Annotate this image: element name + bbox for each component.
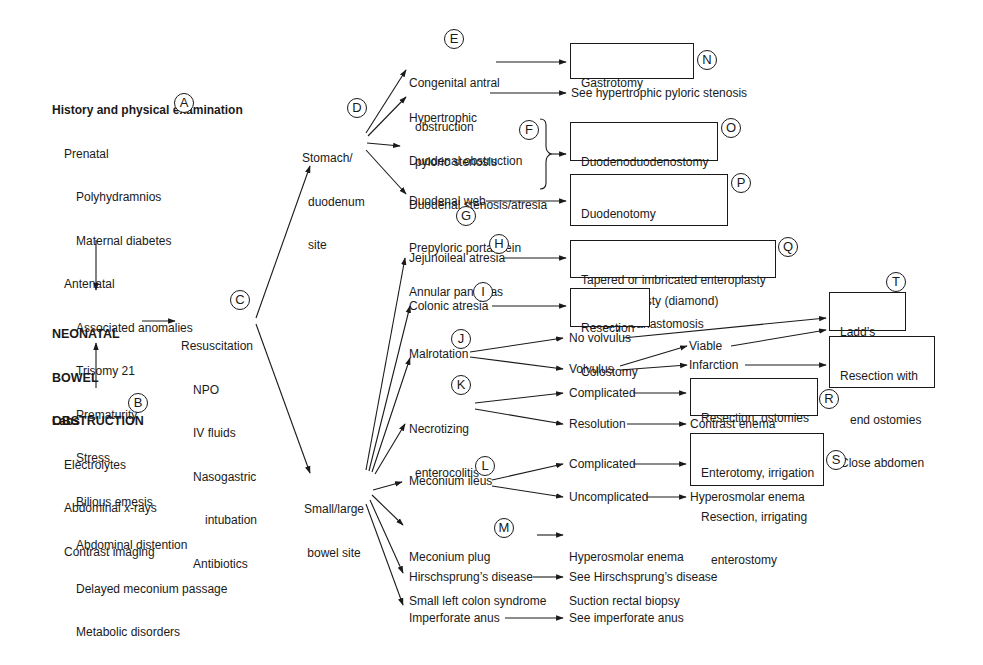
result-box-t: Ladd’s procedure	[829, 292, 906, 331]
mi-complicated: Complicated	[569, 457, 636, 472]
colonic-atresia: Colonic atresia	[409, 299, 488, 314]
history-heading: History and physical examination	[52, 103, 243, 118]
badge-n: N	[697, 50, 717, 70]
see-imperforate-link[interactable]: See imperforate anus	[569, 611, 684, 626]
labs-item: Contrast imaging	[52, 545, 157, 560]
small-large-bowel-site: Small/large bowel site	[304, 473, 364, 575]
badge-c: C	[230, 290, 250, 310]
antenatal-label: Antenatal	[52, 277, 243, 292]
resuscitation-item: intubation	[181, 513, 257, 528]
plug-line: Meconium plug	[409, 550, 546, 565]
resuscitation-item: Nasogastric	[181, 470, 257, 485]
result-line: Duodenoduodenostomy	[581, 155, 707, 170]
result-line: Resection, ostomies	[701, 411, 807, 426]
resuscitation-item: Antibiotics	[181, 557, 257, 572]
result-box-o: Duodenoduodenostomy Duodenojejunostomy	[570, 122, 718, 161]
badge-s: S	[826, 450, 846, 470]
labs-heading: Labs	[52, 414, 157, 429]
labs-item: Electrolytes	[52, 458, 157, 473]
stomach-site-line: Stomach/	[302, 151, 365, 166]
see-hirschsprung-link[interactable]: See Hirschsprung’s disease	[569, 570, 718, 585]
result-box-n: Gastrotomy Membrane excision	[570, 43, 694, 79]
resuscitation-block: Resuscitation NPO IV fluids Nasogastric …	[181, 310, 257, 586]
result-line: Resection, irrigating	[701, 510, 813, 525]
hypertrophic-line: Hypertrophic	[409, 111, 497, 126]
meconium-ileus: Meconium ileus	[409, 474, 492, 489]
center-line: BOWEL	[52, 371, 144, 386]
stomach-duodenum-site: Stomach/ duodenum site	[302, 122, 365, 267]
bowel-site-line: Small/large	[304, 502, 364, 517]
plug-line: Small left colon syndrome	[409, 594, 546, 609]
resuscitation-item: NPO	[181, 383, 257, 398]
result-line: enterostomy	[701, 553, 813, 568]
hirschsprung-disease: Hirschsprung’s disease	[409, 570, 533, 585]
stomach-site-line: duodenum	[302, 195, 365, 210]
badge-j: J	[451, 329, 471, 349]
result-box-s: Enterotomy, irrigation Resection, irriga…	[690, 433, 824, 486]
result-line: Duodenotomy	[581, 207, 717, 222]
result-line: Colostomy	[581, 365, 639, 380]
center-line: NEONATAL	[52, 327, 144, 342]
result-box-colonic: Resection Colostomy	[570, 288, 650, 327]
result-line: Tapered or imbricated enteroplasty	[581, 273, 765, 288]
badge-f: F	[519, 120, 539, 140]
result-box-q: Tapered or imbricated enteroplasty Prima…	[570, 240, 776, 278]
result-line: Resection with	[840, 369, 924, 384]
result-line: Resection	[581, 321, 639, 336]
badge-q: Q	[778, 237, 798, 257]
badge-g: G	[456, 206, 476, 226]
badge-r: R	[819, 389, 839, 409]
duodenal-web: Duodenal web	[409, 194, 486, 209]
result-line: end ostomies	[840, 413, 924, 428]
badge-l: L	[475, 456, 495, 476]
badge-t: T	[886, 272, 906, 292]
badge-e: E	[444, 29, 464, 49]
result-line: Close abdomen	[840, 456, 924, 471]
result-line: Gastrotomy	[581, 76, 683, 91]
badge-p: P	[731, 173, 751, 193]
infarction: Infarction	[689, 358, 738, 373]
badge-o: O	[721, 118, 741, 138]
result-box-p: Duodenotomy Web excision Duodenoplasty (…	[570, 174, 728, 226]
stomach-site-line: site	[302, 238, 365, 253]
resuscitation-heading: Resuscitation	[181, 339, 257, 354]
prenatal-item: Maternal diabetes	[52, 234, 243, 249]
bowel-site-line: bowel site	[304, 546, 364, 561]
resuscitation-item: IV fluids	[181, 426, 257, 441]
mi-uncomplicated: Uncomplicated	[569, 490, 648, 505]
duodenal-line: Duodenal obstruction	[409, 154, 547, 169]
malrotation: Malrotation	[409, 347, 468, 362]
labs-block: Labs Electrolytes Abdominal x-rays Contr…	[52, 385, 157, 574]
nec-resolution: Resolution	[569, 417, 626, 432]
badge-a: A	[174, 93, 194, 113]
jejunoileal-atresia: Jejunoileal atresia	[409, 251, 505, 266]
badge-d: D	[347, 98, 367, 118]
plug-result-line: Hyperosmolar enema	[569, 550, 684, 565]
labs-item: Abdominal x-rays	[52, 501, 157, 516]
result-box-r: Resection, ostomies Peritoneal drainage	[690, 378, 818, 416]
result-line: Enterotomy, irrigation	[701, 466, 813, 481]
imperforate-anus: Imperforate anus	[409, 611, 500, 626]
badge-k: K	[451, 375, 471, 395]
prenatal-label: Prenatal	[52, 147, 243, 162]
badge-b: B	[128, 393, 148, 413]
plug-result-line: Suction rectal biopsy	[569, 594, 684, 609]
prenatal-item: Polyhydramnios	[52, 190, 243, 205]
nec-line: Necrotizing	[409, 422, 479, 437]
result-box-infarction: Resection with end ostomies Close abdome…	[829, 336, 935, 388]
antenatal-item: Metabolic disorders	[52, 625, 243, 640]
